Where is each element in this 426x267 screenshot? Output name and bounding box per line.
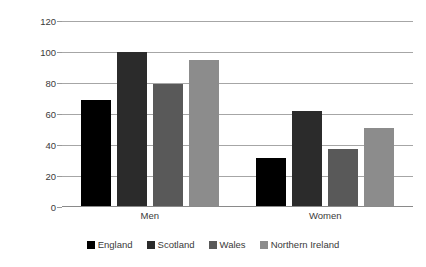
y-axis-tick-mark bbox=[57, 114, 62, 115]
bar-groups bbox=[62, 21, 413, 207]
legend-item[interactable]: Northern Ireland bbox=[260, 239, 340, 250]
legend-swatch-icon bbox=[147, 241, 155, 249]
y-axis-tick-label: 40 bbox=[26, 140, 56, 151]
bar bbox=[81, 100, 111, 207]
y-axis-tick-mark bbox=[57, 52, 62, 53]
y-axis-tick-label: 80 bbox=[26, 78, 56, 89]
bar bbox=[117, 52, 147, 207]
x-axis-category-label: Women bbox=[238, 210, 414, 221]
y-axis-tick-label: 20 bbox=[26, 171, 56, 182]
legend-label: Scotland bbox=[158, 239, 195, 250]
legend-swatch-icon bbox=[209, 241, 217, 249]
y-axis-tick-label: 100 bbox=[26, 47, 56, 58]
bar bbox=[328, 149, 358, 207]
legend-swatch-icon bbox=[87, 241, 95, 249]
bar bbox=[256, 158, 286, 207]
bar bbox=[364, 128, 394, 207]
legend-label: Northern Ireland bbox=[271, 239, 340, 250]
y-axis-tick-label: 120 bbox=[26, 16, 56, 27]
y-axis-tick-mark bbox=[57, 207, 62, 208]
y-axis-tick-label: 0 bbox=[26, 202, 56, 213]
legend-label: Wales bbox=[220, 239, 246, 250]
legend-item[interactable]: England bbox=[87, 239, 133, 250]
y-axis-tick-mark bbox=[57, 21, 62, 22]
bar bbox=[292, 111, 322, 207]
bar bbox=[153, 84, 183, 207]
bar-group bbox=[62, 21, 238, 207]
y-axis-tick-labels: 020406080100120 bbox=[26, 0, 56, 267]
y-axis-tick-mark bbox=[57, 176, 62, 177]
x-axis-category-labels: MenWomen bbox=[62, 210, 413, 226]
legend-swatch-icon bbox=[260, 241, 268, 249]
bar-group bbox=[238, 21, 414, 207]
bar-chart: Per 100,000 adults 020406080100120 MenWo… bbox=[0, 0, 426, 267]
legend: EnglandScotlandWalesNorthern Ireland bbox=[0, 239, 426, 250]
y-axis-tick-mark bbox=[57, 83, 62, 84]
y-axis-tick-label: 60 bbox=[26, 109, 56, 120]
x-axis-category-label: Men bbox=[62, 210, 238, 221]
legend-item[interactable]: Scotland bbox=[147, 239, 195, 250]
legend-item[interactable]: Wales bbox=[209, 239, 246, 250]
plot-area bbox=[62, 21, 413, 207]
x-axis-line bbox=[62, 206, 413, 207]
y-axis-tick-mark bbox=[57, 145, 62, 146]
legend-label: England bbox=[98, 239, 133, 250]
bar bbox=[189, 60, 219, 207]
